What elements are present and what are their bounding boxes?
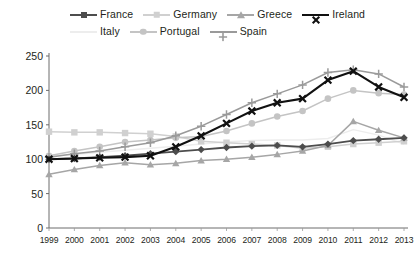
x-tick-label: 2001 — [87, 235, 113, 245]
x-tick-label: 2008 — [264, 235, 290, 245]
y-tick-label: 100 — [17, 154, 43, 164]
circle-marker-icon — [325, 95, 332, 102]
x-tick-label: 1999 — [36, 235, 62, 245]
x-tick-label: 2000 — [61, 235, 87, 245]
circle-marker-icon — [350, 87, 357, 94]
plus-marker-icon — [197, 122, 205, 130]
y-tick-label: 150 — [17, 120, 43, 130]
triangle-marker-icon — [350, 118, 357, 124]
x-tick-label: 2012 — [366, 235, 392, 245]
plus-marker-icon — [400, 83, 408, 91]
plus-marker-icon — [222, 110, 230, 118]
y-tick-label: 200 — [17, 85, 43, 95]
square-marker-icon — [147, 131, 153, 137]
circle-marker-icon — [274, 113, 281, 120]
x-tick-label: 2009 — [290, 235, 316, 245]
y-tick-label: 50 — [17, 189, 43, 199]
square-marker-icon — [97, 129, 103, 135]
circle-marker-icon — [299, 108, 306, 115]
square-marker-icon — [46, 128, 52, 134]
x-tick-label: 2006 — [214, 235, 240, 245]
diamond-marker-icon — [197, 146, 204, 153]
circle-marker-icon — [223, 128, 230, 135]
x-tick-label: 2005 — [188, 235, 214, 245]
plus-marker-icon — [248, 99, 256, 107]
x-tick-label: 2011 — [340, 235, 366, 245]
plus-marker-icon — [374, 70, 382, 78]
x-tick-label: 2003 — [137, 235, 163, 245]
x-tick-label: 2007 — [239, 235, 265, 245]
x-tick-label: 2010 — [315, 235, 341, 245]
x-tick-label: 2002 — [112, 235, 138, 245]
plus-marker-icon — [273, 90, 281, 98]
x-tick-label: 2013 — [391, 235, 417, 245]
y-tick-label: 250 — [17, 51, 43, 61]
square-marker-icon — [71, 129, 77, 135]
x-tick-label: 2004 — [163, 235, 189, 245]
plus-marker-icon — [298, 81, 306, 89]
circle-marker-icon — [375, 90, 382, 97]
circle-marker-icon — [249, 120, 256, 127]
square-marker-icon — [122, 130, 128, 136]
plus-marker-icon — [324, 68, 332, 76]
y-tick-label: 0 — [17, 223, 43, 233]
